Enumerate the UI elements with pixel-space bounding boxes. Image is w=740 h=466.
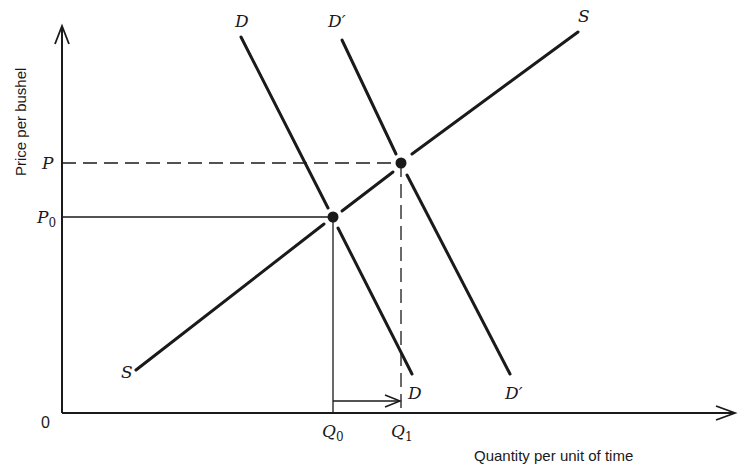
x-axis-title: Quantity per unit of time [474,447,633,464]
x-axis [62,406,735,420]
demand-curve-d [241,37,412,374]
supply-demand-diagram: Price per bushel Quantity per unit of ti… [0,0,740,466]
label-quantity-q0: Q0 [322,421,344,444]
equilibrium-point-new [396,158,407,169]
label-s-top: S [578,6,590,26]
y-axis-title: Price per bushel [12,68,29,176]
label-d-prime-bottom: D′ [504,383,523,403]
label-price-p: P [41,153,54,173]
demand-curve-d-prime [342,40,510,374]
y-axis [55,26,69,413]
label-price-p0: P0 [36,207,56,230]
quantity-shift-arrow-icon [333,395,400,407]
label-s-bottom: S [121,362,133,382]
label-d-bottom: D [407,383,422,403]
supply-curve-s [136,32,578,370]
equilibrium-point-initial [328,212,339,223]
label-quantity-q1: Q1 [391,421,413,444]
origin-label: 0 [41,414,50,431]
label-d-prime-top: D′ [327,11,346,31]
label-d-top: D [234,11,249,31]
